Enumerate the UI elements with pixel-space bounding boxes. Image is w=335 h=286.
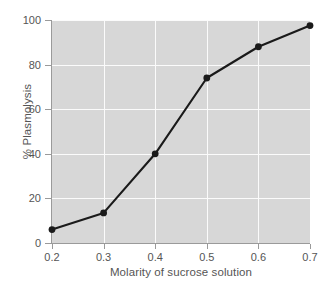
x-axis-tick-label: 0.7 <box>293 251 327 263</box>
x-axis-tick <box>104 244 105 249</box>
x-axis-tick-label: 0.6 <box>241 251 275 263</box>
gridline-vertical <box>155 20 156 243</box>
plot-area <box>52 20 310 243</box>
gridline-horizontal <box>52 154 310 155</box>
x-axis-tick <box>155 244 156 249</box>
y-axis-tick <box>45 243 51 244</box>
x-axis-spine <box>51 243 310 244</box>
y-axis-spine <box>51 20 52 244</box>
gridline-vertical <box>104 20 105 243</box>
y-axis-tick <box>45 20 51 21</box>
x-axis-tick-label: 0.4 <box>138 251 172 263</box>
gridline-vertical <box>207 20 208 243</box>
x-axis-tick <box>258 244 259 249</box>
y-axis-title: % Plasmolysis <box>16 0 38 243</box>
gridline-horizontal <box>52 65 310 66</box>
y-axis-tick <box>45 154 51 155</box>
x-axis-tick <box>310 244 311 249</box>
gridline-horizontal <box>52 109 310 110</box>
x-axis-tick-label: 0.2 <box>35 251 69 263</box>
x-axis-tick <box>52 244 53 249</box>
x-axis-tick-label: 0.3 <box>87 251 121 263</box>
gridline-horizontal <box>52 198 310 199</box>
y-axis-tick <box>45 109 51 110</box>
x-axis-title: Molarity of sucrose solution <box>52 266 310 278</box>
x-axis-tick <box>207 244 208 249</box>
x-axis-tick-label: 0.5 <box>190 251 224 263</box>
gridline-vertical <box>258 20 259 243</box>
gridline-horizontal <box>52 20 310 21</box>
plasmolysis-line-chart: 0204060801000.20.30.40.50.60.7 % Plasmol… <box>0 0 335 286</box>
y-axis-tick <box>45 198 51 199</box>
y-axis-tick <box>45 65 51 66</box>
